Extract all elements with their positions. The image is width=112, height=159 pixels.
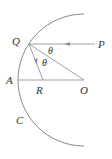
label-a: A — [5, 74, 13, 86]
normal-line-qo — [29, 44, 84, 80]
label-theta-lower: θ — [42, 57, 47, 68]
arrow-left-icon — [64, 42, 70, 46]
mirror-diagram: Q P θ θ A R O C — [0, 0, 112, 159]
label-o: O — [80, 84, 88, 96]
label-p: P — [97, 38, 105, 50]
label-c: C — [16, 114, 24, 126]
label-r: R — [35, 84, 43, 96]
label-q: Q — [12, 35, 20, 47]
label-theta-upper: θ — [48, 45, 53, 56]
